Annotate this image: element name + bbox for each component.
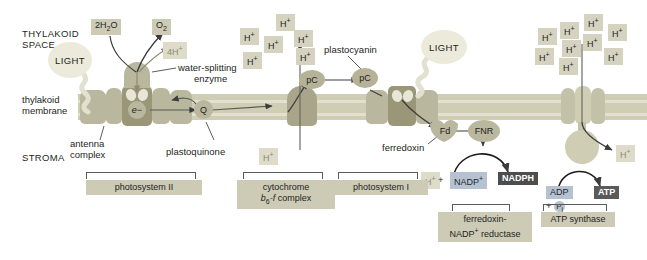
plus-sign-nadp: +: [438, 174, 444, 185]
photosystem-ii-label: photosystem II: [86, 180, 202, 195]
proton-chip: H+: [243, 52, 262, 69]
proton-chip-stroma-cytochrome: H+: [259, 148, 278, 165]
water-splitting-enzyme-callout: water-splitting enzyme: [150, 62, 237, 84]
nadph-chip: NADPH: [498, 172, 538, 185]
antenna-complex-line2: complex: [70, 149, 105, 160]
ferredoxin-reductase-line2: NADP+ reductase: [442, 225, 528, 240]
photosynthesis-diagram: e−: [0, 0, 647, 260]
water-splitting-enzyme-line2: enzyme: [150, 73, 237, 84]
photosystem-i-label: photosystem I: [334, 180, 428, 195]
antenna-complex-callout: antenna complex: [70, 138, 105, 160]
proton-chip: H+: [608, 24, 627, 41]
proton-chip-stroma-atp: H+: [616, 145, 635, 162]
cytochrome-label-line1: cytochrome: [241, 182, 331, 193]
proton-chip: H+: [264, 36, 283, 53]
proton-chip: H+: [560, 22, 579, 39]
cytochrome-label-line2: b6-f complex: [241, 193, 331, 207]
bracket-ferredoxin-reductase: [452, 204, 510, 211]
ferredoxin-callout: ferredoxin: [382, 142, 424, 153]
cytochrome-b6f-label: cytochrome b6-f complex: [237, 180, 335, 209]
nadp-plus-chip: NADP+: [450, 172, 487, 189]
proton-chip: H+: [559, 58, 578, 75]
proton-chip: H+: [296, 48, 315, 65]
ferredoxin-nadp-reductase-label: ferredoxin- NADP+ reductase: [438, 212, 532, 242]
bracket-cytochrome: [243, 172, 323, 179]
atp-synthase-label: ATP synthase: [541, 212, 615, 227]
proton-chip: H+: [584, 14, 603, 31]
proton-chip: H+: [562, 40, 581, 57]
antenna-complex-line1: antenna: [70, 138, 105, 149]
ferredoxin-reductase-line1: ferredoxin-: [442, 214, 528, 225]
proton-chip: H+: [240, 28, 259, 45]
fnr-carrier: FNR: [468, 120, 500, 142]
proton-chip: H+: [276, 14, 295, 31]
water-splitting-enzyme-line1: water-splitting: [150, 62, 237, 73]
proton-chip: H+: [583, 34, 602, 51]
bracket-atp-synthase: [543, 204, 607, 211]
proton-chip: H+: [604, 48, 623, 65]
plastoquinone-callout: plastoquinone: [166, 146, 225, 157]
adp-chip: ADP: [546, 186, 573, 199]
ferredoxin-symbol: Fd: [432, 124, 458, 138]
proton-chip: H+: [535, 48, 554, 65]
plastocyanin-callout: plastocyanin: [324, 44, 377, 55]
atp-chip: ATP: [594, 186, 619, 199]
proton-chip: H+: [294, 30, 313, 47]
bracket-photosystem-i: [338, 172, 418, 179]
bracket-photosystem-ii: [86, 172, 196, 179]
proton-chip: H+: [538, 28, 557, 45]
